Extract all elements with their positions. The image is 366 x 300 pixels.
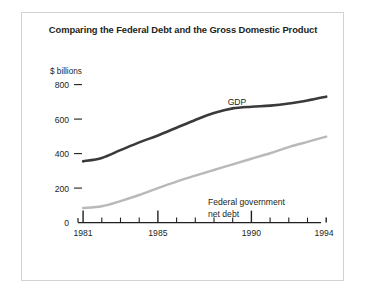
x-tick-marks-major [83, 211, 326, 223]
y-tick-label-800: 800 [55, 80, 70, 90]
series-line-gdp [83, 97, 326, 162]
x-tick-label-1981: 1981 [74, 228, 93, 238]
x-tick-marks-minor [102, 218, 308, 223]
chart-figure: Comparing the Federal Debt and the Gross… [0, 0, 366, 300]
x-tick-label-1990: 1990 [242, 228, 261, 238]
y-tick-label-600: 600 [55, 115, 70, 125]
y-tick-label-200: 200 [55, 184, 70, 194]
y-axis-unit-label: $ billions [50, 67, 82, 76]
series-line-federal-net-debt [83, 137, 326, 208]
y-tick-marks [74, 85, 82, 189]
debt-series-label-line1: Federal government [208, 197, 286, 207]
debt-series-label-line2: net debt [208, 209, 240, 219]
y-tick-label-0: 0 [64, 218, 69, 228]
gdp-series-label: GDP [228, 97, 247, 107]
y-tick-label-400: 400 [55, 149, 70, 159]
x-tick-label-1985: 1985 [148, 228, 167, 238]
chart-plot: $ billions 800 600 400 200 0 [21, 12, 344, 281]
x-tick-label-1994: 1994 [314, 228, 333, 238]
